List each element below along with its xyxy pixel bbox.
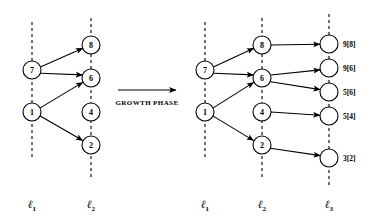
node-label: 1 (203, 108, 207, 117)
edge-1-to-6 (213, 82, 254, 108)
growth-phase-label: GROWTH PHASE (116, 99, 179, 107)
node-l1-1: 1 (23, 103, 41, 121)
edge-1-to-2 (213, 116, 254, 141)
node-l2-4: 4 (82, 103, 100, 121)
edge-4-to-5-4 (271, 112, 320, 115)
node-l2-8: 8 (253, 36, 271, 54)
edge-7-to-6 (41, 73, 83, 75)
node-circle (320, 107, 338, 125)
edge-7-to-8 (213, 48, 253, 67)
node-l3-a (320, 35, 338, 53)
level-label-l3-right: ℓ3 (325, 198, 334, 213)
edge-group-right-l2-l3 (270, 44, 320, 155)
edge-7-to-8 (40, 48, 82, 67)
node-label: 8 (89, 41, 93, 50)
edge-8-to-9-8 (271, 44, 320, 45)
growth-phase-transition: GROWTH PHASE (116, 90, 179, 107)
node-tag-9-8: 9[8] (343, 40, 356, 49)
node-label: 7 (203, 66, 207, 75)
node-label: 6 (260, 74, 264, 83)
edge-6-to-9-6 (271, 70, 320, 75)
node-label: 2 (260, 141, 264, 150)
node-l2-6: 6 (82, 69, 100, 87)
level3-tag-group: 9[8] 9[6] 5[6] 5[4] 3[2] (343, 40, 356, 163)
node-l1-7: 7 (23, 61, 41, 79)
graph-figure: 7 1 8 6 4 (0, 0, 376, 223)
level-label-l1-right: ℓ1 (201, 198, 210, 213)
node-l2-8: 8 (82, 36, 100, 54)
node-l1-1: 1 (196, 103, 214, 121)
figure-canvas: 7 1 8 6 4 (0, 0, 376, 223)
level-label-subscript: 3 (330, 205, 334, 213)
edge-2-to-3-2 (270, 148, 320, 155)
node-label: 8 (260, 41, 264, 50)
node-l2-2: 2 (82, 136, 100, 154)
node-tag-5-6: 5[6] (343, 88, 356, 97)
level-label-subscript: 1 (33, 205, 37, 213)
node-circle (320, 35, 338, 53)
level-label-l1-left: ℓ1 (28, 198, 37, 213)
level-label-l2-left: ℓ2 (87, 198, 96, 213)
edge-group-right-l1-l2 (213, 48, 254, 140)
level-label-subscript: 2 (263, 205, 267, 213)
node-l2-2: 2 (253, 136, 271, 154)
node-circle (320, 83, 338, 101)
node-l1-7: 7 (196, 61, 214, 79)
node-l3-d (320, 107, 338, 125)
node-l3-c (320, 83, 338, 101)
after-growth-panel: 7 1 8 6 4 (196, 14, 356, 213)
node-tag-3-2: 3[2] (343, 154, 356, 163)
node-label: 2 (89, 141, 93, 150)
node-l3-e (320, 149, 338, 167)
edge-1-to-6 (40, 82, 82, 108)
node-l2-6: 6 (253, 69, 271, 87)
node-label: 1 (30, 108, 34, 117)
edge-6-to-5-6 (271, 82, 321, 90)
level-label-l2-right: ℓ2 (258, 198, 267, 213)
edge-7-to-6 (214, 73, 254, 75)
node-tag-5-4: 5[4] (343, 112, 356, 121)
node-group-right: 7 1 8 6 4 (196, 35, 338, 167)
node-label: 6 (89, 74, 93, 83)
level-label-subscript: 1 (206, 205, 210, 213)
edge-1-to-2 (40, 116, 82, 141)
before-growth-panel: 7 1 8 6 4 (23, 18, 100, 213)
node-circle (320, 149, 338, 167)
edge-group-left (40, 48, 83, 140)
node-label: 4 (89, 108, 93, 117)
node-circle (320, 59, 338, 77)
node-label: 4 (260, 108, 264, 117)
node-l3-b (320, 59, 338, 77)
node-l2-4: 4 (253, 103, 271, 121)
node-tag-9-6: 9[6] (343, 64, 356, 73)
node-label: 7 (30, 66, 34, 75)
level-label-subscript: 2 (92, 205, 96, 213)
